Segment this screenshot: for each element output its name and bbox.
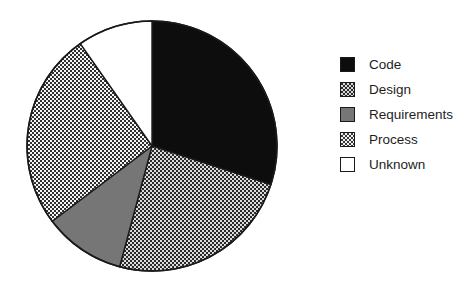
legend-item-requirements[interactable]: Requirements: [340, 102, 470, 127]
legend-item-design[interactable]: Design: [340, 77, 470, 102]
legend-swatch-requirements: [340, 107, 355, 122]
legend-label-code: Code: [369, 58, 401, 72]
legend-label-requirements: Requirements: [369, 108, 453, 122]
legend-item-unknown[interactable]: Unknown: [340, 152, 470, 177]
legend-swatch-process: [340, 132, 355, 147]
legend-swatch-code: [340, 57, 355, 72]
legend-label-unknown: Unknown: [369, 158, 425, 172]
legend-swatch-unknown: [340, 157, 355, 172]
chart-legend: Code Design Requirements Process Unknown: [340, 52, 470, 177]
legend-item-code[interactable]: Code: [340, 52, 470, 77]
legend-label-design: Design: [369, 83, 411, 97]
legend-item-process[interactable]: Process: [340, 127, 470, 152]
pie-chart-figure: Code Design Requirements Process Unknown: [0, 0, 476, 288]
pie-chart-svg: [0, 0, 310, 288]
legend-swatch-design: [340, 82, 355, 97]
legend-label-process: Process: [369, 133, 418, 147]
pie-chart-plot-area: [0, 0, 310, 288]
